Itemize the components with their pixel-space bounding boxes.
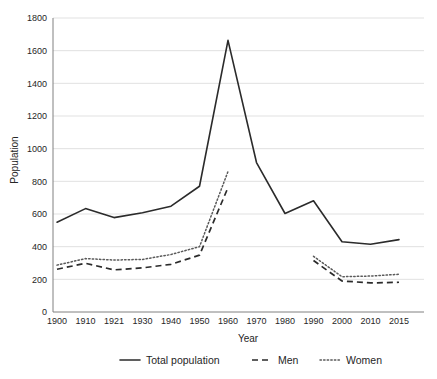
legend-label-total-population: Total population [146,354,220,366]
y-tick-label: 1000 [27,144,47,154]
x-tick-labels-group: 1900191019211930194019501960197019801990… [47,316,409,326]
y-tick-label: 1400 [27,79,47,89]
x-tick-label: 1970 [246,316,266,326]
x-tick-label: 2010 [360,316,380,326]
y-tick-label: 800 [32,177,47,187]
x-tick-label: 1940 [161,316,181,326]
y-tick-label: 600 [32,209,47,219]
x-axis-title: Year [238,333,259,344]
x-tick-label: 1910 [75,316,95,326]
x-tick-label: 1990 [303,316,323,326]
x-tick-label: 1960 [218,316,238,326]
population-line-chart: 020040060080010001200140016001800 190019… [0,0,437,379]
y-tick-label: 1800 [27,13,47,23]
series-line-men [57,188,228,270]
y-tick-label: 200 [32,275,47,285]
x-tick-label: 1921 [104,316,124,326]
y-tick-label: 1600 [27,46,47,56]
y-tick-label: 1200 [27,111,47,121]
gridlines-group [53,18,424,279]
series-line-women [57,172,228,266]
x-tick-label: 1980 [275,316,295,326]
y-tick-labels-group: 020040060080010001200140016001800 [27,13,47,317]
x-tick-label: 2015 [389,316,409,326]
x-tick-label: 1900 [47,316,67,326]
series-line-women [314,256,400,276]
legend-label-men: Men [278,354,299,366]
y-tick-label: 400 [32,242,47,252]
x-tick-label: 1930 [132,316,152,326]
y-axis-title: Population [9,136,20,183]
legend-label-women: Women [346,354,382,366]
x-tick-label: 2000 [332,316,352,326]
chart-legend: Total populationMenWomen [120,354,382,366]
x-tick-label: 1950 [189,316,209,326]
chart-canvas: 020040060080010001200140016001800 190019… [0,0,437,379]
